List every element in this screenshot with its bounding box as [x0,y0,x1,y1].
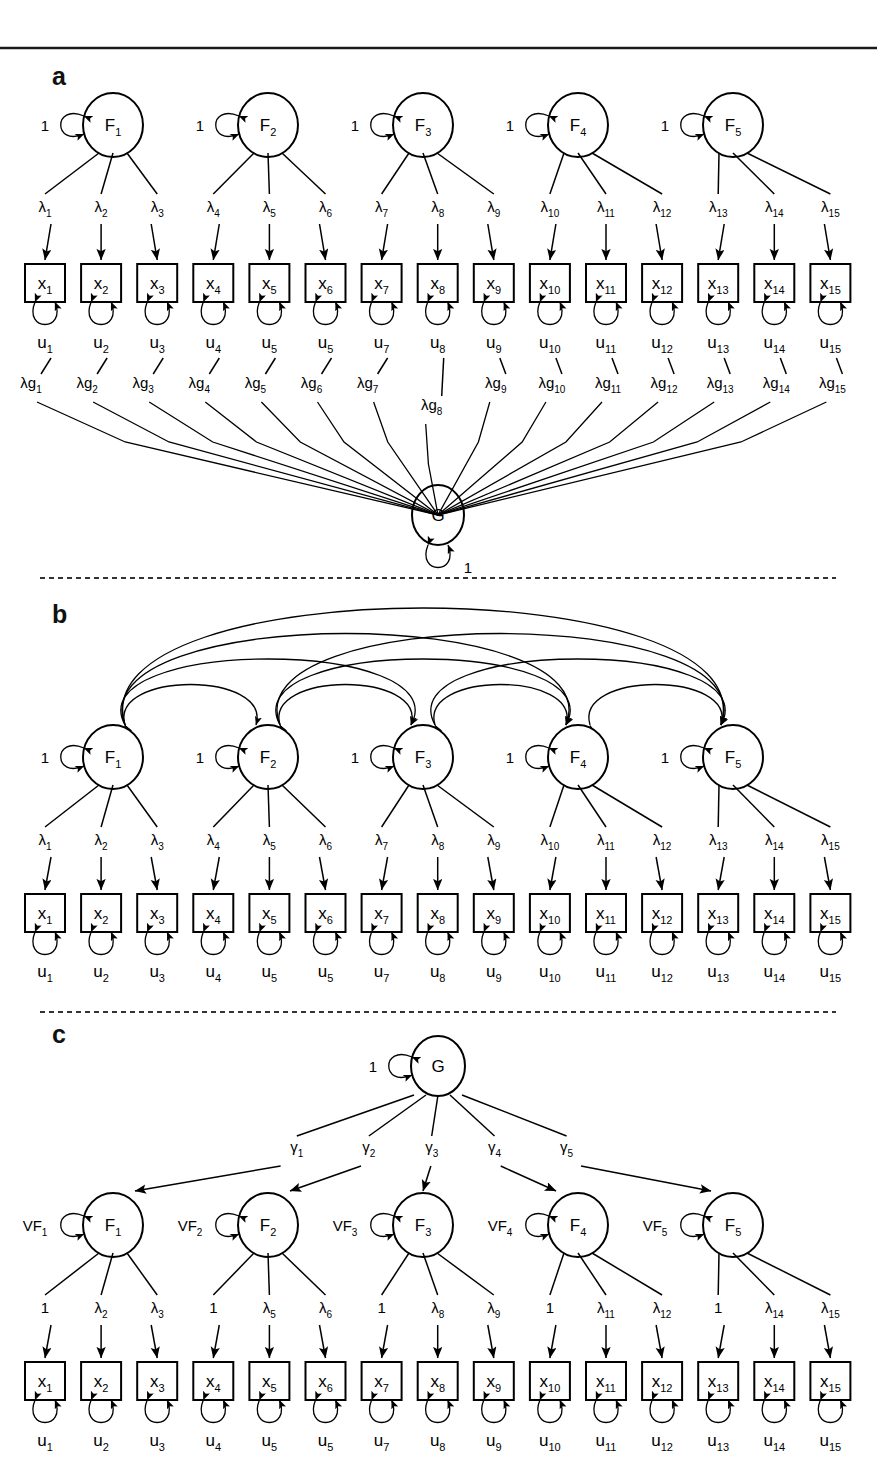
residual-label-a-9: u9 [486,333,502,355]
residual-label-c-5: u5 [262,1431,278,1453]
factor-stem-a-7 [382,153,409,194]
factor-stem-c-7 [382,1253,409,1295]
residual-loop-c-9 [482,1400,506,1423]
factor-stem-c-10 [550,1253,564,1295]
loading-arrow-c-1 [45,1325,51,1358]
loading-label-c-8: λ8 [431,1299,445,1320]
factor-variance-loop-b-1 [61,746,84,769]
indicator-box-c-15 [810,1362,850,1400]
factor-stem-b-9 [437,785,494,827]
loading-label-a-6: λ6 [319,198,333,219]
loading-label-b-5: λ5 [263,831,277,852]
general-variance-loop-c [389,1055,412,1078]
indicator-box-b-11 [586,894,626,932]
loading-arrow-a-12 [656,224,662,260]
indicator-box-a-13 [698,264,738,302]
loading-arrow-c-4 [213,1325,219,1358]
residual-label-a-4: u4 [206,333,222,355]
loading-label-a-5: λ5 [263,198,277,219]
factor-stem-b-5 [268,785,269,827]
factor-variance-label-b-2: 1 [196,749,204,766]
loading-arrow-b-12 [656,857,662,890]
factor-stem-b-4 [213,785,254,827]
g-loading-label-a-4: λg4 [189,374,211,395]
loading-label-a-2: λ2 [95,198,109,219]
gamma-arrow-c-3 [423,1166,431,1191]
factor-variance-loop-b-2 [216,746,239,769]
residual-loop-a-10 [538,302,562,325]
indicator-box-c-14 [754,1362,794,1400]
factor-stem-b-7 [382,785,409,827]
factor-variance-label-c-5: VF5 [643,1217,668,1238]
factor-stem-a-15 [747,153,830,194]
residual-loop-b-12 [650,932,674,955]
residual-label-c-1: u1 [37,1431,53,1453]
g-loading-label-a-5: λg5 [245,374,267,395]
g-loading-path-a-4 [205,402,438,515]
g-loading-stem-a-7 [378,358,388,374]
loading-label-c-7: 1 [377,1299,385,1316]
gamma-arrow-c-2 [290,1166,361,1191]
loading-label-a-4: λ4 [207,198,221,219]
factor-variance-loop-c-5 [681,1214,704,1237]
factor-stem-c-3 [127,1253,157,1295]
loading-label-a-3: λ3 [151,198,165,219]
loading-arrow-c-6 [320,1325,326,1358]
factor-variance-loop-c-4 [526,1214,549,1237]
loading-label-c-9: λ9 [487,1299,501,1320]
residual-label-a-13: u13 [707,333,729,355]
factor-correlation-arc-b-2-4 [276,659,570,725]
residual-loop-c-2 [89,1400,113,1423]
loading-label-b-6: λ6 [319,831,333,852]
factor-stem-b-10 [550,785,564,827]
residual-label-c-4: u4 [206,1431,222,1453]
residual-loop-c-5 [257,1400,281,1423]
loading-arrow-b-7 [382,857,388,890]
residual-loop-c-14 [762,1400,786,1423]
loading-label-a-9: λ9 [487,198,501,219]
panel-b: F11F21F31F41F51λ1λ2λ3λ4λ5λ6λ7λ8λ9λ10λ11λ… [25,608,850,984]
loading-arrow-c-9 [488,1325,494,1358]
loading-label-b-15: λ15 [821,831,840,852]
indicator-box-b-15 [810,894,850,932]
g-loading-stem-a-14 [780,358,786,374]
factor-stem-c-5 [268,1253,269,1295]
residual-loop-b-2 [89,932,113,955]
general-factor-label-c: G [431,1057,444,1076]
loading-arrow-b-13 [718,857,724,890]
factor-stem-a-8 [423,153,438,194]
indicator-box-c-12 [642,1362,682,1400]
residual-loop-c-10 [538,1400,562,1423]
residual-label-c-13: u13 [707,1431,729,1453]
factor-correlation-arc-b-3-5 [431,659,725,725]
factor-variance-loop-b-4 [526,746,549,769]
g-loading-path-a-5 [261,402,438,515]
g-loading-path-a-11 [438,402,602,515]
residual-label-b-12: u12 [651,962,673,984]
g-loading-label-a-10: λg10 [538,374,565,395]
factor-variance-label-c-3: VF3 [333,1217,358,1238]
loading-arrow-a-1 [45,224,51,260]
loading-arrow-a-4 [213,224,219,260]
residual-loop-a-8 [426,302,450,325]
factor-variance-label-b-5: 1 [661,749,669,766]
loading-arrow-b-15 [824,857,830,890]
loading-label-a-8: λ8 [431,198,445,219]
residual-loop-a-4 [201,302,225,325]
loading-label-b-11: λ11 [597,831,615,852]
factor-variance-label-b-4: 1 [506,749,514,766]
residual-label-b-1: u1 [37,962,53,984]
residual-loop-b-13 [706,932,730,955]
factor-variance-loop-a-2 [216,114,239,137]
factor-variance-label-a-1: 1 [41,117,49,134]
factor-variance-loop-c-1 [61,1214,84,1237]
g-loading-stem-a-3 [153,358,163,374]
g-loading-stem-a-9 [500,358,506,374]
residual-loop-a-14 [762,302,786,325]
residual-loop-a-5 [257,302,281,325]
residual-label-b-15: u15 [820,962,842,984]
gamma-label-c-2: γ2 [362,1138,376,1159]
residual-loop-a-12 [650,302,674,325]
indicator-box-c-11 [586,1362,626,1400]
residual-label-a-12: u12 [651,333,673,355]
